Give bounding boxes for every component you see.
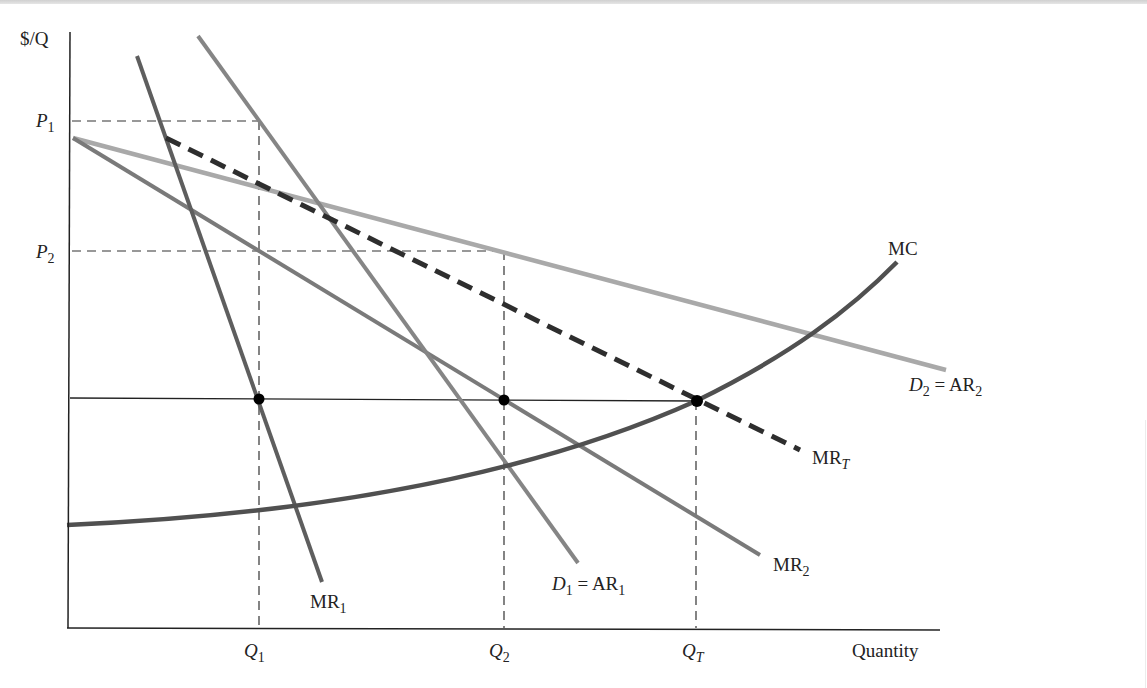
mr2-line <box>73 138 760 555</box>
y-axis-label: $/Q <box>20 28 49 49</box>
p1-label: P1 <box>35 110 55 135</box>
d2-ar2-line <box>73 138 946 370</box>
mr1-label: MR1 <box>310 591 347 616</box>
p2-label: P2 <box>35 241 55 266</box>
mr1-line <box>137 56 322 582</box>
q2-label: Q2 <box>489 640 510 665</box>
mrt-label: MRT <box>812 447 851 472</box>
x-axis <box>67 628 940 630</box>
mrt-mc-point <box>691 395 703 407</box>
qt-label: QT <box>682 640 705 665</box>
d1-label: D1 = AR1 <box>551 573 625 598</box>
mc-level-line <box>70 398 696 401</box>
mr1-mc-point <box>254 394 265 405</box>
q1-label: Q1 <box>244 640 265 665</box>
mr2-mc-point <box>499 395 510 406</box>
d1-ar1-line <box>198 36 578 563</box>
reference-lines <box>72 121 696 628</box>
mc-label: MC <box>888 238 918 259</box>
x-axis-label: Quantity <box>852 640 919 661</box>
price-discrimination-chart: $/Q Quantity P1 P2 Q1 Q2 QT MC D2 = AR2 … <box>0 0 1147 688</box>
y-axis <box>68 32 70 628</box>
d2-label: D2 = AR2 <box>908 374 982 399</box>
mc-curve <box>67 262 897 525</box>
mr2-label: MR2 <box>773 554 810 579</box>
